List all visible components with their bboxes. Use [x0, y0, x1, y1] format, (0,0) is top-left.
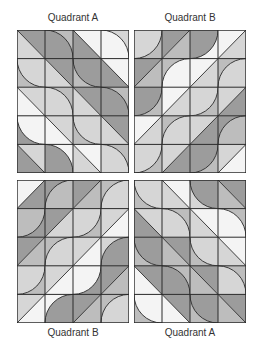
quilt-cell [190, 180, 218, 209]
quilt-grid [17, 180, 129, 323]
quilt-cell [134, 144, 162, 173]
quilt-cell [134, 116, 162, 145]
quilt-cell [218, 209, 246, 238]
quilt-cell [190, 30, 218, 59]
quilt-cell [162, 237, 190, 266]
quilt-cell [190, 237, 218, 266]
quilt-cell [101, 144, 129, 173]
quilt-cell [45, 266, 73, 295]
quilt-cell [218, 180, 246, 209]
label-quadrant-top-left: Quadrant A [17, 12, 129, 23]
quadrant-top-right [134, 30, 246, 173]
quilt-cell [134, 180, 162, 209]
quilt-cell [101, 294, 129, 323]
quilt-cell [17, 59, 45, 88]
quilt-cell [162, 59, 190, 88]
quilt-cell [73, 209, 101, 238]
quilt-cell [101, 209, 129, 238]
quilt-cell [17, 144, 45, 173]
quilt-cell [17, 116, 45, 145]
quilt-cell [17, 237, 45, 266]
quilt-cell [190, 144, 218, 173]
quilt-cell [162, 144, 190, 173]
quilt-cell [162, 180, 190, 209]
quilt-cell [17, 30, 45, 59]
quilt-cell [162, 116, 190, 145]
quilt-cell [190, 116, 218, 145]
quilt-cell [45, 237, 73, 266]
label-quadrant-top-right: Quadrant B [134, 12, 246, 23]
quilt-cell [218, 59, 246, 88]
quilt-cell [45, 294, 73, 323]
quilt-cell [45, 87, 73, 116]
quilt-cell [17, 180, 45, 209]
quilt-cell [218, 266, 246, 295]
quilt-cell [218, 237, 246, 266]
quilt-cell [73, 59, 101, 88]
quilt-cell [45, 59, 73, 88]
quilt-cell [134, 294, 162, 323]
quilt-cell [73, 266, 101, 295]
quilt-cell [162, 294, 190, 323]
quilt-cell [162, 87, 190, 116]
quilt-cell [101, 30, 129, 59]
quadrant-top-left [17, 30, 129, 173]
quilt-cell [101, 237, 129, 266]
quilt-cell [73, 116, 101, 145]
quadrant-bottom-right [134, 180, 246, 323]
quilt-cell [73, 87, 101, 116]
quilt-cell [73, 237, 101, 266]
quilt-cell [101, 266, 129, 295]
quilt-cell [218, 87, 246, 116]
label-quadrant-bottom-left: Quadrant B [17, 327, 129, 338]
quilt-cell [134, 237, 162, 266]
quilt-cell [218, 116, 246, 145]
quilt-cell [17, 209, 45, 238]
quilt-cell [162, 30, 190, 59]
quilt-cell [162, 266, 190, 295]
quilt-cell [45, 180, 73, 209]
quilt-cell [190, 209, 218, 238]
quilt-cell [162, 209, 190, 238]
quadrant-bottom-left [17, 180, 129, 323]
quilt-cell [218, 294, 246, 323]
quilt-cell [101, 87, 129, 116]
quilt-cell [190, 266, 218, 295]
quilt-cell [45, 116, 73, 145]
quilt-grid [134, 30, 246, 173]
quilt-grid [134, 180, 246, 323]
quilt-cell [17, 266, 45, 295]
quilt-cell [101, 180, 129, 209]
quilt-cell [73, 30, 101, 59]
quilt-cell [218, 30, 246, 59]
quilt-grid [17, 30, 129, 173]
quilt-cell [45, 144, 73, 173]
quilt-cell [45, 30, 73, 59]
quilt-cell [45, 209, 73, 238]
quilt-cell [134, 209, 162, 238]
label-quadrant-bottom-right: Quadrant A [134, 327, 246, 338]
quilt-cell [17, 87, 45, 116]
quilt-cell [190, 59, 218, 88]
quilt-cell [134, 30, 162, 59]
quilt-cell [73, 144, 101, 173]
quilt-cell [134, 59, 162, 88]
quilt-cell [101, 116, 129, 145]
quilt-cell [134, 87, 162, 116]
quilt-cell [134, 266, 162, 295]
quilt-cell [190, 87, 218, 116]
quilt-cell [73, 180, 101, 209]
quilt-cell [73, 294, 101, 323]
quilt-cell [17, 294, 45, 323]
quilt-cell [101, 59, 129, 88]
quilt-cell [190, 294, 218, 323]
quilt-cell [218, 144, 246, 173]
